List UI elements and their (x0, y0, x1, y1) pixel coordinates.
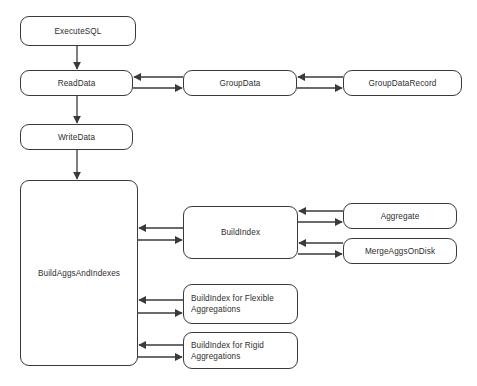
flowchart-canvas: ExecuteSQLReadDataGroupDataGroupDataReco… (0, 0, 477, 386)
node-read-data[interactable]: ReadData (20, 70, 133, 96)
node-build-index[interactable]: BuildIndex (183, 206, 298, 259)
node-label-build-index: BuildIndex (221, 227, 260, 238)
node-group-data[interactable]: GroupData (183, 70, 297, 96)
node-write-data[interactable]: WriteData (20, 124, 133, 150)
node-build-index-flexible[interactable]: BuildIndex for Flexible Aggregations (183, 284, 298, 324)
node-label-group-data: GroupData (220, 78, 261, 89)
node-aggregate[interactable]: Aggregate (343, 203, 457, 229)
node-label-execute-sql: ExecuteSQL (55, 26, 102, 37)
node-label-merge-aggs-on-disk: MergeAggsOnDisk (365, 246, 435, 257)
node-label-read-data: ReadData (58, 78, 96, 89)
node-execute-sql[interactable]: ExecuteSQL (20, 16, 136, 46)
node-label-build-index-rigid: BuildIndex for Rigid Aggregations (191, 340, 264, 362)
node-merge-aggs-on-disk[interactable]: MergeAggsOnDisk (343, 238, 457, 264)
node-label-write-data: WriteData (58, 132, 95, 143)
node-build-aggs-and-indexes[interactable]: BuildAggsAndIndexes (20, 180, 138, 366)
node-group-data-record[interactable]: GroupDataRecord (343, 70, 462, 96)
node-label-group-data-record: GroupDataRecord (369, 78, 437, 89)
node-label-build-index-flexible: BuildIndex for Flexible Aggregations (191, 293, 274, 315)
node-label-aggregate: Aggregate (381, 211, 420, 222)
node-build-index-rigid[interactable]: BuildIndex for Rigid Aggregations (183, 332, 298, 369)
node-label-build-aggs-and-indexes: BuildAggsAndIndexes (38, 268, 120, 279)
